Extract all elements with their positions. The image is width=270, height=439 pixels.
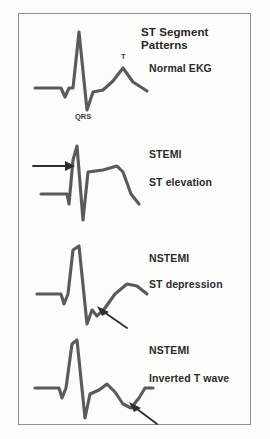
waveform-normal-svg	[31, 18, 161, 128]
waveform-nstemi-inverted-t	[31, 332, 161, 428]
panel-nstemi-inverted-t: NSTEMI Inverted T wave	[19, 332, 252, 428]
waveform-normal: QRS T	[31, 18, 161, 128]
waveform-nstemi-depression	[31, 236, 161, 336]
wave-label-t: T	[121, 52, 126, 61]
arrow-stemi	[33, 161, 75, 171]
waveform-nstemi-inverted-t-svg	[31, 332, 161, 428]
panel-stemi: STEMI ST elevation	[19, 132, 252, 230]
panel-label-stemi-sub: ST elevation	[149, 176, 212, 188]
panel-label-nstemi-inverted-t-sub: Inverted T wave	[149, 372, 229, 384]
waveform-stemi	[31, 132, 161, 230]
panel-label-stemi-main: STEMI	[149, 148, 182, 160]
arrow-nstemi-depression	[97, 306, 127, 328]
waveform-stemi-svg	[31, 132, 161, 230]
panel-label-normal-main: Normal EKG	[149, 62, 212, 74]
panel-label-nstemi-depression-main: NSTEMI	[149, 252, 189, 264]
figure-border: ST Segment Patterns QRS T Normal EKG	[18, 13, 251, 425]
panel-normal: QRS T Normal EKG	[19, 18, 252, 128]
figure-root: ST Segment Patterns QRS T Normal EKG	[0, 0, 270, 439]
arrow-nstemi-inverted-t	[129, 402, 157, 424]
panel-label-nstemi-depression-sub: ST depression	[149, 278, 223, 290]
panel-nstemi-depression: NSTEMI ST depression	[19, 236, 252, 336]
waveform-nstemi-depression-svg	[31, 236, 161, 336]
panel-label-nstemi-inverted-t-main: NSTEMI	[149, 344, 189, 356]
wave-label-qrs: QRS	[75, 112, 91, 121]
